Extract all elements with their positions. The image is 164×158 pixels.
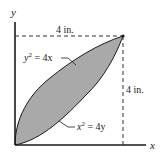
x-axis-label: x <box>149 139 155 151</box>
horizontal-dimension-label: 4 in. <box>56 24 74 35</box>
lower-curve-label-rest: = 4y <box>85 121 106 132</box>
upper-curve-label-rest: = 4x <box>32 52 53 63</box>
svg-text:y2 = 4x: y2 = 4x <box>23 51 53 63</box>
diagram-canvas: y x 4 in. 4 in. y2 = 4x x2 = 4y <box>0 0 164 158</box>
vertical-dimension-label: 4 in. <box>126 84 144 95</box>
lower-curve-leader-line <box>59 121 75 127</box>
y-axis-label: y <box>10 6 16 18</box>
lower-curve-label: x2 = 4y <box>59 120 106 132</box>
svg-text:x2 = 4y: x2 = 4y <box>76 120 106 132</box>
upper-curve-label: y2 = 4x <box>23 51 76 65</box>
corner-point <box>121 34 124 37</box>
